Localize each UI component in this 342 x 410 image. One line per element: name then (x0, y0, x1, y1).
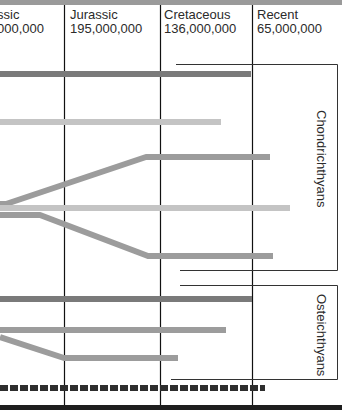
phylogeny-chart (0, 0, 342, 410)
group-label-osteichthyans: Osteichthyans (314, 294, 329, 376)
bottom-border (0, 405, 342, 410)
group-label-chondrichthyans: Chondrichthyans (314, 110, 329, 208)
lineage-chondrichthyans-2 (0, 157, 270, 204)
lineage-osteichthyans-7 (0, 337, 178, 358)
lineage-lines (0, 74, 290, 388)
lineage-chondrichthyans-4 (0, 215, 273, 256)
